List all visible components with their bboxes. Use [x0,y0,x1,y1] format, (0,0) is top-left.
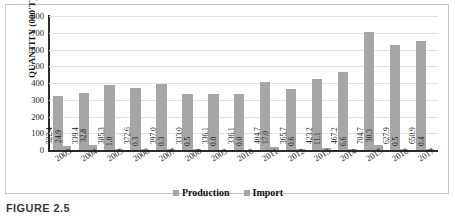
chart-frame: QUANTITY (000'T) 80070060050040030020010… [5,4,449,194]
chart-legend: ProductionImport [6,187,450,198]
bar-value-label-import: 32.8 [79,129,88,142]
plot-area: 322.424.9339.432.8385.31.0372.60.3397.00… [49,16,438,150]
bar-group[interactable]: 365.70.6 [285,16,306,150]
legend-item-production[interactable]: Production [173,187,230,198]
bar-series-layer: 322.424.9339.432.8385.31.0372.60.3397.00… [49,16,438,150]
bar-value-label-import: 11.1 [313,133,322,146]
bar-group[interactable]: 322.424.9 [52,16,73,150]
bar-group[interactable]: 336.10.0 [233,16,254,150]
bar-group[interactable]: 339.432.8 [78,16,99,150]
bar-value-label-import: 17.0 [261,131,270,144]
bar-group[interactable]: 404.717.0 [259,16,280,150]
bar-group[interactable]: 397.00.3 [155,16,176,150]
bar-value-label-import: 6.6 [339,137,348,146]
bar-group[interactable]: 372.60.3 [129,16,150,150]
bar-value-label-import: 0.3 [157,137,166,146]
bar-value-label-import: 0.5 [183,137,192,146]
y-axis-tick-label: 300 [18,95,44,105]
bar-group[interactable]: 336.10.0 [207,16,228,150]
y-axis-tick-labels: 8007006005004003002001000 [16,16,44,150]
bar-group[interactable]: 650.90.4 [415,16,436,150]
figure-caption: FIGURE 2.5 [6,202,70,214]
y-axis-tick-label: 500 [18,61,44,71]
bar-value-label-import: 0.0 [235,137,244,146]
figure-container: QUANTITY (000'T) 80070060050040030020010… [0,0,455,221]
bar-group[interactable]: 333.00.5 [181,16,202,150]
square-marker-icon [244,190,250,196]
bar-value-label-production: 704.7 [356,127,365,144]
bar-value-label-import: 0.5 [391,137,400,146]
square-marker-icon [173,190,179,196]
bar-value-label-import: 30.3 [365,129,374,142]
bar-value-label-production: 627.9 [382,127,391,144]
bar-production[interactable]: 627.9 [390,45,400,150]
legend-label: Production [182,187,230,198]
y-axis-tick-label: 800 [18,11,44,21]
y-axis-tick-label: 600 [18,45,44,55]
bar-value-label-import: 0.4 [417,137,426,146]
bar-group[interactable]: 704.730.3 [363,16,384,150]
bar-group[interactable]: 423.211.1 [311,16,332,150]
bar-value-label-production: 650.9 [408,127,417,144]
bar-value-label-import: 24.9 [54,130,63,143]
bar-group[interactable]: 467.26.6 [337,16,358,150]
y-axis-tick-label: 100 [18,128,44,138]
y-axis-tick-label: 200 [18,112,44,122]
bar-value-label-import: 0.6 [287,137,296,146]
bar-value-label-import: 0.0 [209,137,218,146]
legend-item-import[interactable]: Import [244,187,284,198]
bar-value-label-import: 0.3 [131,137,140,146]
y-axis-tick-label: 700 [18,28,44,38]
bar-group[interactable]: 385.31.0 [103,16,124,150]
bar-value-label-import: 1.0 [105,137,114,146]
y-axis-tick-label: 0 [18,145,44,155]
legend-label: Import [253,187,284,198]
bar-value-label-production: 322.4 [45,127,54,144]
bar-group[interactable]: 627.90.5 [389,16,410,150]
y-axis-tick-label: 400 [18,78,44,88]
bar-production[interactable]: 650.9 [416,41,426,150]
x-axis-tick-labels: 2003200420052006200720082009201020112012… [49,153,438,187]
